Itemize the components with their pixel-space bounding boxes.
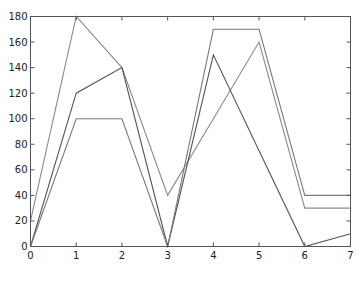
line-chart: 020406080100120140160180 01234567 [0, 0, 360, 293]
y-tick-label: 40 [15, 190, 28, 201]
y-tick-label: 60 [15, 164, 28, 175]
x-tick-label: 2 [119, 250, 125, 261]
x-tick-label: 1 [73, 250, 79, 261]
y-tick-label: 120 [8, 88, 27, 99]
plot-area [31, 17, 351, 247]
y-axis: 020406080100120140160180 [8, 11, 350, 252]
y-tick-label: 160 [8, 37, 27, 48]
line-series-2 [31, 55, 351, 247]
x-tick-label: 5 [256, 250, 262, 261]
x-tick-label: 4 [210, 250, 216, 261]
x-tick-label: 0 [27, 250, 33, 261]
x-tick-label: 7 [347, 250, 353, 261]
y-tick-label: 80 [15, 139, 28, 150]
x-tick-label: 3 [164, 250, 170, 261]
y-tick-label: 180 [8, 11, 27, 22]
y-tick-label: 20 [15, 215, 28, 226]
line-series-3 [31, 29, 351, 246]
axes-frame [31, 17, 351, 247]
y-tick-label: 140 [8, 62, 27, 73]
x-tick-label: 6 [302, 250, 308, 261]
y-tick-label: 100 [8, 113, 27, 124]
